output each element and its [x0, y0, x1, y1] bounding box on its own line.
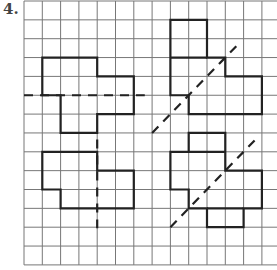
- grid-diagram: [0, 0, 277, 270]
- diagonal-cut-line-bottom: [170, 140, 254, 227]
- shape-bottom-left: [42, 152, 134, 209]
- diagonal-cut-line-top: [152, 46, 236, 133]
